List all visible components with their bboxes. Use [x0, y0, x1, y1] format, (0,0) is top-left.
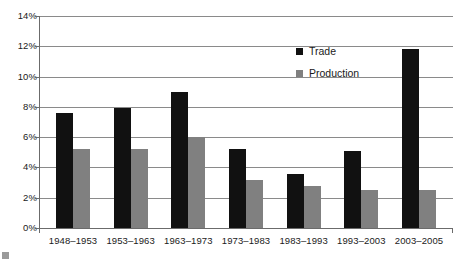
x-axis-tick-label: 1973–1983 — [216, 236, 276, 246]
x-axis-tick-label: 1983–1993 — [274, 236, 334, 246]
plot-area — [39, 16, 453, 228]
bar-trade-1993–2003 — [344, 151, 361, 228]
x-axis-tick-label: 1948–1953 — [43, 236, 103, 246]
gridline-10pct — [39, 77, 453, 78]
bar-trade-1963–1973 — [171, 92, 188, 228]
bar-trade-2003–2005 — [402, 49, 419, 228]
x-axis-tick-label: 2003–2005 — [389, 236, 449, 246]
legend-item-production: Production — [296, 66, 359, 81]
bar-trade-1983–1993 — [287, 174, 304, 229]
y-axis-tick-mark — [35, 137, 39, 138]
bar-production-1983–1993 — [304, 186, 321, 228]
gridline-0pct — [39, 228, 453, 229]
gridline-4pct — [39, 167, 453, 168]
gridline-12pct — [39, 46, 453, 47]
x-axis-tick-label: 1953–1963 — [101, 236, 161, 246]
gridline-6pct — [39, 137, 453, 138]
y-axis-tick-mark — [35, 16, 39, 17]
bar-chart: 0%2%4%6%8%10%12%14% 1948–19531953–196319… — [0, 0, 461, 264]
bar-trade-1953–1963 — [114, 108, 131, 228]
legend: Trade Production — [296, 44, 359, 88]
y-axis-line — [39, 16, 40, 229]
legend-label-trade: Trade — [309, 46, 336, 57]
y-axis-tick-mark — [35, 46, 39, 47]
bar-production-1963–1973 — [188, 137, 205, 228]
bar-production-1993–2003 — [361, 190, 378, 228]
x-axis-tick-label: 1993–2003 — [331, 236, 391, 246]
gridline-8pct — [39, 107, 453, 108]
y-axis-tick-mark — [35, 198, 39, 199]
legend-swatch-production-icon — [296, 70, 303, 77]
y-axis-tick-mark — [35, 107, 39, 108]
x-axis-tick-mark — [39, 229, 40, 233]
bar-trade-1973–1983 — [229, 149, 246, 228]
bar-production-2003–2005 — [419, 190, 436, 228]
bar-production-1953–1963 — [131, 149, 148, 228]
gridline-14pct — [39, 16, 453, 17]
y-axis-tick-mark — [35, 167, 39, 168]
corner-artifact — [2, 252, 9, 259]
legend-swatch-trade-icon — [296, 48, 303, 55]
bar-trade-1948–1953 — [56, 113, 73, 228]
bar-production-1948–1953 — [73, 149, 90, 228]
x-axis-tick-label: 1963–1973 — [158, 236, 218, 246]
legend-label-production: Production — [309, 68, 359, 79]
x-axis-tick-mark — [452, 229, 453, 233]
y-axis-tick-mark — [35, 77, 39, 78]
legend-item-trade: Trade — [296, 44, 359, 59]
bar-production-1973–1983 — [246, 180, 263, 228]
